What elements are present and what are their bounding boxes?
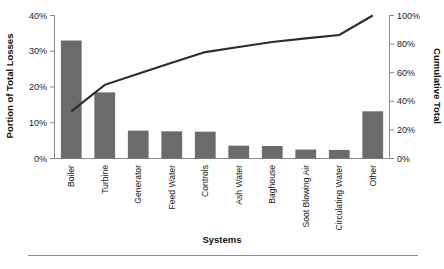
bar xyxy=(362,111,383,158)
bar xyxy=(228,146,249,159)
bar xyxy=(128,131,149,159)
y-tick-label-40: 40% xyxy=(29,11,47,21)
bar xyxy=(329,150,350,159)
bar xyxy=(262,146,283,159)
y2-tick-label-80: 80% xyxy=(397,39,415,49)
category-label: Controls xyxy=(200,165,210,197)
bar xyxy=(161,131,182,158)
y-tick-label-0: 0% xyxy=(34,154,47,164)
y-axis-title: Portion of Total Losses xyxy=(4,34,15,139)
y-tick-label-10: 10% xyxy=(29,118,47,128)
chart-canvas: Portion of Total Losses Cumulative Total… xyxy=(0,0,444,269)
category-label: Circulating Water xyxy=(334,165,344,231)
y2-tick-label-100: 100% xyxy=(397,11,420,21)
y2-axis-ticks: 0% 20% 40% 60% 80% 100% xyxy=(390,11,421,164)
y-tick-label-30: 30% xyxy=(29,46,47,56)
category-label: Baghouse xyxy=(267,165,277,204)
footer-divider xyxy=(28,255,418,256)
cumulative-line xyxy=(71,16,373,112)
x-axis-title: Systems xyxy=(202,234,241,245)
y2-tick-label-40: 40% xyxy=(397,96,415,106)
category-label: Boiler xyxy=(66,165,76,187)
category-label: Ash Water xyxy=(234,165,244,205)
bar xyxy=(295,150,316,159)
bar xyxy=(94,92,115,158)
y2-tick-label-0: 0% xyxy=(397,154,410,164)
category-label: Other xyxy=(368,165,378,187)
y-axis-ticks: 0% 10% 20% 30% 40% xyxy=(29,11,55,164)
category-label: Feed Water xyxy=(167,165,177,210)
y2-tick-label-20: 20% xyxy=(397,125,415,135)
y-tick-label-20: 20% xyxy=(29,82,47,92)
y2-axis-title: Cumulative Total xyxy=(432,48,443,124)
x-axis-category-labels: BoilerTurbineGeneratorFeed WaterControls… xyxy=(66,165,378,231)
bar-series xyxy=(61,41,383,159)
pareto-chart: Portion of Total Losses Cumulative Total… xyxy=(0,0,444,269)
category-label: Generator xyxy=(133,165,143,204)
bar xyxy=(61,41,82,159)
category-label: Soot Blowing Air xyxy=(301,165,311,228)
y2-tick-label-60: 60% xyxy=(397,68,415,78)
bar xyxy=(195,132,216,159)
category-label: Turbine xyxy=(100,165,110,194)
